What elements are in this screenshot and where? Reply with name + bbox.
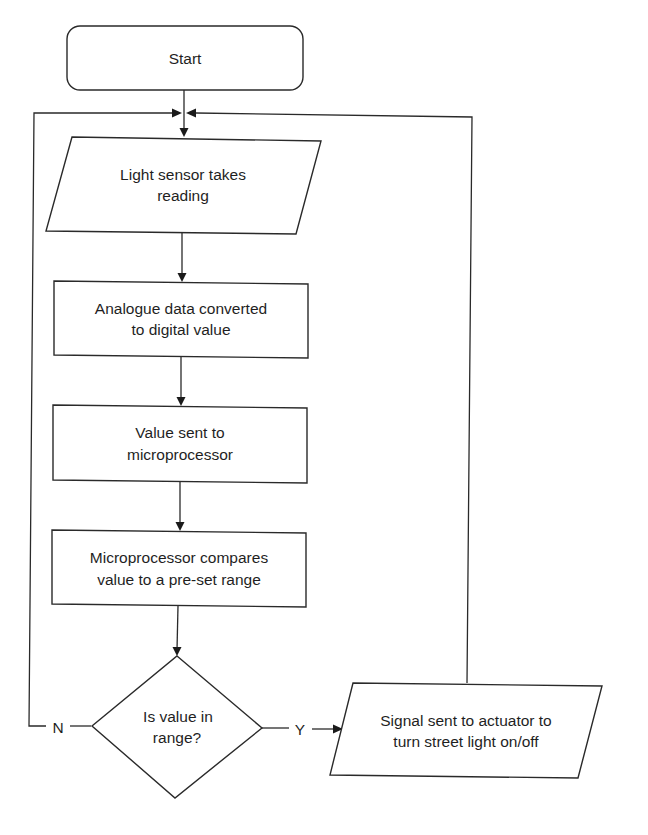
- decision-label-line-1: Is value in: [143, 708, 213, 725]
- decision-label-line-2: range?: [153, 729, 202, 746]
- read-label-line-1: Light sensor takes: [120, 166, 246, 183]
- flowchart: Start Light sensor takes reading Analogu…: [0, 0, 648, 835]
- signal-label-line-1: Signal sent to actuator to: [380, 712, 551, 729]
- arrow-left-icon: [186, 109, 196, 118]
- read-shape: [46, 137, 321, 234]
- send-label-line-2: microprocessor: [127, 446, 233, 463]
- arrow-down-icon: [176, 522, 185, 531]
- send-label-line-1: Value sent to: [135, 424, 224, 441]
- arrow-right-icon: [172, 109, 182, 118]
- compare-label-line-1: Microprocessor compares: [90, 549, 269, 566]
- branch-no-label: N: [52, 719, 63, 736]
- decision-shape: [92, 656, 262, 798]
- send-node: Value sent to microprocessor: [53, 405, 307, 483]
- arrow-down-icon: [180, 128, 189, 137]
- start-node: Start: [67, 26, 303, 90]
- convert-label-line-1: Analogue data converted: [95, 300, 267, 317]
- decision-node: Is value in range?: [92, 656, 262, 798]
- read-label-line-2: reading: [157, 187, 209, 204]
- arrow-down-icon: [177, 397, 186, 406]
- send-shape: [53, 405, 307, 483]
- compare-node: Microprocessor compares value to a pre-s…: [52, 530, 306, 607]
- compare-label-line-2: value to a pre-set range: [97, 571, 261, 588]
- signal-shape: [330, 683, 602, 778]
- signal-node: Signal sent to actuator to turn street l…: [330, 683, 602, 778]
- compare-shape: [52, 530, 306, 607]
- read-node: Light sensor takes reading: [46, 137, 321, 234]
- convert-shape: [54, 281, 308, 358]
- connector-compare-decision: [177, 606, 178, 650]
- arrow-down-icon: [173, 647, 182, 656]
- branch-yes-label: Y: [295, 721, 305, 738]
- start-label: Start: [169, 50, 202, 67]
- arrow-down-icon: [178, 273, 187, 282]
- convert-node: Analogue data converted to digital value: [54, 281, 308, 358]
- signal-label-line-2: turn street light on/off: [393, 733, 539, 750]
- convert-label-line-2: to digital value: [131, 321, 230, 338]
